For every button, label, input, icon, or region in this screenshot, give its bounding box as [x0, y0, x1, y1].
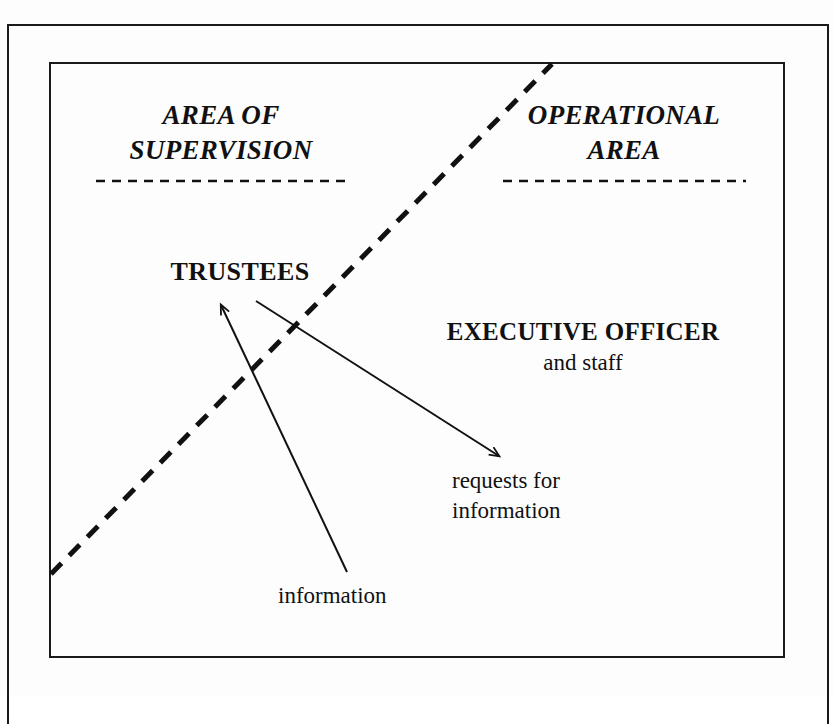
- heading-area-of-supervision: AREA OF SUPERVISION: [96, 98, 346, 168]
- heading-operational-area: OPERATIONAL AREA: [500, 98, 748, 168]
- node-label-trustees: TRUSTEES: [130, 257, 350, 287]
- node-label-executive-officer: EXECUTIVE OFFICER and staff: [418, 318, 748, 378]
- executive-officer-title: EXECUTIVE OFFICER: [418, 318, 748, 347]
- arrow-caption-requests-for-information: requests for information: [452, 466, 652, 527]
- executive-officer-subtitle: and staff: [418, 347, 748, 378]
- arrow-caption-information: information: [278, 581, 478, 611]
